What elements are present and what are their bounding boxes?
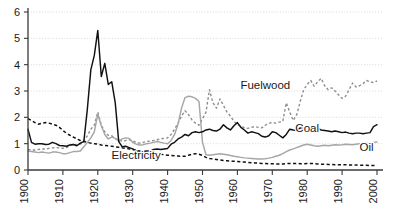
x-tick-label-1900: 1900	[18, 179, 30, 203]
x-tick-label-1930: 1930	[123, 179, 135, 203]
y-tick-label-5: 5	[14, 32, 20, 44]
x-tick-label-1980: 1980	[297, 179, 309, 203]
x-axis-tick-labels: 1900191019201930194019501960197019801990…	[18, 179, 379, 203]
gridlines-group	[28, 12, 383, 144]
x-tick-label-1920: 1920	[88, 179, 100, 203]
y-tick-label-2: 2	[14, 111, 20, 123]
series-label-electricity: Electricity	[112, 149, 161, 161]
y-tick-label-0: 0	[14, 164, 20, 176]
y-axis-tick-labels: 0123456	[14, 6, 20, 176]
axes-group	[24, 8, 383, 175]
series-label-coal: Coal	[295, 122, 319, 134]
series-label-oil: Oil	[359, 141, 373, 153]
x-tick-label-2000: 2000	[367, 179, 379, 203]
y-tick-label-1: 1	[14, 138, 20, 150]
y-tick-label-3: 3	[14, 85, 20, 97]
x-tick-label-1940: 1940	[158, 179, 170, 203]
series-line-oil	[28, 96, 377, 159]
x-tick-label-1990: 1990	[332, 179, 344, 203]
energy-price-line-chart: 0123456 19001910192019301940195019601970…	[0, 0, 395, 215]
x-tick-label-1950: 1950	[193, 179, 205, 203]
y-tick-label-6: 6	[14, 6, 20, 18]
series-label-fuelwood: Fuelwood	[240, 79, 290, 91]
series-group	[28, 30, 377, 165]
series-annotations: FuelwoodCoalOilElectricity	[112, 79, 374, 162]
chart-canvas: 0123456 19001910192019301940195019601970…	[0, 0, 395, 215]
x-tick-label-1960: 1960	[227, 179, 239, 203]
x-tick-label-1910: 1910	[53, 179, 65, 203]
y-tick-label-4: 4	[14, 59, 20, 71]
x-tick-label-1970: 1970	[262, 179, 274, 203]
